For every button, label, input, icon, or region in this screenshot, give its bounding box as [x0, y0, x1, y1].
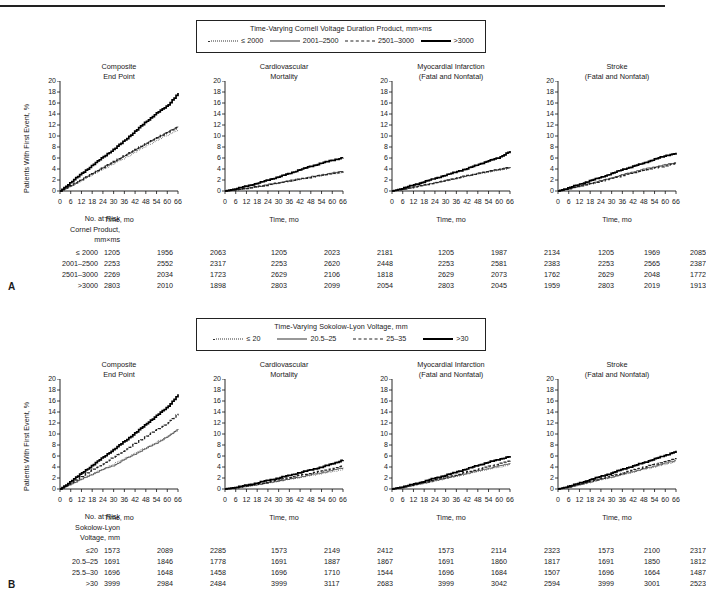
- y-axis-label: Patients With First Event, %: [22, 104, 31, 193]
- risk-cell: 1913: [690, 281, 706, 290]
- plot-area: 024681012141618200612182430364248546066: [179, 379, 357, 511]
- risk-cell: 2253: [271, 259, 287, 268]
- chart-title-line1: Cardiovascular: [225, 62, 343, 72]
- plot-area: 024681012141618200612182430364248546066: [346, 81, 524, 213]
- chart-title-line2: (Fatal and Nonfatal): [392, 72, 510, 82]
- risk-cell: 1969: [644, 248, 660, 257]
- series-line: [558, 163, 676, 191]
- risk-cell: 1573: [104, 546, 120, 555]
- plot-area: 024681012141618200612182430364248546066: [179, 81, 357, 213]
- risk-cell: 1205: [438, 248, 454, 257]
- risk-cell: 2269: [104, 270, 120, 279]
- legend-item: ≤ 20: [213, 334, 260, 343]
- y-axis-label: Patients With First Event, %: [22, 402, 31, 491]
- x-axis-label: Time, mo: [225, 215, 343, 224]
- risk-cell: 2253: [598, 259, 614, 268]
- risk-cell: 1696: [104, 568, 120, 577]
- risk-cell: 1691: [271, 557, 287, 566]
- risk-cell: 1762: [544, 270, 560, 279]
- risk-cell: 2629: [598, 270, 614, 279]
- risk-cell: 2045: [491, 281, 507, 290]
- chart-2: CardiovascularMortality02468101214161820…: [179, 62, 357, 224]
- chart-title: Stroke(Fatal and Nonfatal): [558, 360, 676, 379]
- risk-cell: 1817: [544, 557, 560, 566]
- risk-cell: 1487: [690, 568, 706, 577]
- chart-title-line1: Cardiovascular: [225, 360, 343, 370]
- risk-row-label: >30: [22, 579, 98, 588]
- chart-title: Stroke(Fatal and Nonfatal): [558, 62, 676, 81]
- chart-3: Myocardial Infarction(Fatal and Nonfatal…: [346, 62, 524, 224]
- chart-title-line2: (Fatal and Nonfatal): [558, 370, 676, 380]
- legend-item: 25–35: [353, 334, 406, 343]
- risk-cell: 1458: [210, 568, 226, 577]
- risk-cell: 2253: [438, 259, 454, 268]
- risk-header-b: No. at Risk Sokolow-Lyon Voltage, mm: [12, 512, 120, 544]
- chart-title: Myocardial Infarction(Fatal and Nonfatal…: [392, 62, 510, 81]
- chart-title: CardiovascularMortality: [225, 62, 343, 81]
- legend-item: 2001–2500: [270, 36, 339, 45]
- chart-title-line1: Composite: [60, 62, 178, 72]
- x-axis-label: Time, mo: [225, 513, 343, 522]
- risk-cell: 1544: [377, 568, 393, 577]
- risk-group-label-line2: mm×ms: [12, 235, 120, 246]
- risk-cell: 1959: [544, 281, 560, 290]
- risk-row-label: ≤ 2000: [22, 248, 98, 257]
- risk-cell: 2565: [644, 259, 660, 268]
- risk-cell: 2523: [690, 579, 706, 588]
- risk-cell: 2089: [157, 546, 173, 555]
- chart-title-line2: Mortality: [225, 370, 343, 380]
- risk-cell: 1696: [598, 568, 614, 577]
- risk-cell: 2803: [271, 281, 287, 290]
- plot-area: Patients With First Event, %024681012141…: [14, 81, 192, 213]
- risk-cell: 3042: [491, 579, 507, 588]
- legend-item: 2501–3000: [345, 36, 414, 45]
- risk-cell: 1573: [438, 546, 454, 555]
- risk-header-label: No. at Risk: [12, 512, 120, 523]
- risk-cell: 2063: [210, 248, 226, 257]
- risk-cell: 2803: [438, 281, 454, 290]
- risk-group-label-line1: Cornel Product,: [12, 225, 120, 236]
- risk-cell: 2181: [377, 248, 393, 257]
- risk-cell: 2114: [491, 546, 506, 555]
- legend-label: 2501–3000: [378, 36, 414, 45]
- legend-label: 2001–2500: [303, 36, 339, 45]
- risk-cell: 1778: [210, 557, 226, 566]
- legend-item: 20.5–25: [277, 334, 336, 343]
- legend-label: ≤ 2000: [241, 36, 263, 45]
- risk-cell: 1205: [271, 248, 287, 257]
- chart-1: CompositeEnd PointPatients With First Ev…: [14, 360, 192, 522]
- risk-cell: 3001: [644, 579, 660, 588]
- series-line: [60, 127, 178, 191]
- risk-cell: 2134: [544, 248, 560, 257]
- risk-row-label: 2501–3000: [22, 270, 98, 279]
- legend-items: ≤ 20 20.5–25 25–35 >30: [197, 331, 485, 347]
- chart-title-line2: End Point: [60, 370, 178, 380]
- risk-row-label: 20.5–25: [22, 557, 98, 566]
- risk-cell: 1205: [598, 248, 614, 257]
- risk-cell: 2484: [210, 579, 226, 588]
- legend-panel-a: Time-Varying Cornell Voltage Duration Pr…: [196, 20, 486, 53]
- x-axis-label: Time, mo: [558, 513, 676, 522]
- chart-4: Stroke(Fatal and Nonfatal)02468101214161…: [512, 62, 690, 224]
- risk-cell: 1696: [271, 568, 287, 577]
- risk-cell: 1648: [157, 568, 173, 577]
- legend-item: >3000: [421, 36, 474, 45]
- risk-cell: 2552: [157, 259, 173, 268]
- risk-cell: 2073: [491, 270, 507, 279]
- risk-cell: 3117: [324, 579, 339, 588]
- line-style-thin-icon: [270, 38, 300, 44]
- risk-cell: 2383: [544, 259, 560, 268]
- plot-area: 024681012141618200612182430364248546066: [346, 379, 524, 511]
- chart-1: CompositeEnd PointPatients With First Ev…: [14, 62, 192, 224]
- risk-cell: 1691: [598, 557, 614, 566]
- x-axis-label: Time, mo: [392, 513, 510, 522]
- risk-cell: 2317: [690, 546, 706, 555]
- legend-label: 25–35: [386, 334, 406, 343]
- chart-title-line1: Stroke: [558, 62, 676, 72]
- risk-cell: 1898: [210, 281, 226, 290]
- risk-row-label: 25.5–30: [22, 568, 98, 577]
- risk-cell: 2803: [104, 281, 120, 290]
- risk-row-label: >3000: [22, 281, 98, 290]
- chart-title-line2: (Fatal and Nonfatal): [558, 72, 676, 82]
- risk-cell: 2054: [377, 281, 393, 290]
